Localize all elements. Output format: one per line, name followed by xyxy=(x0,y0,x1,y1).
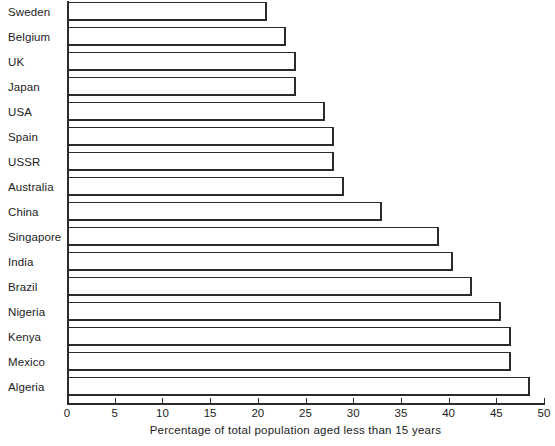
x-axis-tick-label: 5 xyxy=(111,407,117,419)
table-row: Algeria xyxy=(0,375,555,400)
category-label: Nigeria xyxy=(8,300,45,325)
category-label: USA xyxy=(8,100,32,125)
bar-singapore xyxy=(67,227,439,246)
table-row: Sweden xyxy=(0,0,555,25)
x-axis-tick xyxy=(258,398,259,403)
bar-chart: Sweden Belgium UK Japan USA Spain USSR xyxy=(0,0,555,446)
x-axis-tick-label: 45 xyxy=(490,407,503,419)
x-axis-tick xyxy=(496,398,497,403)
x-axis-tick xyxy=(401,398,402,403)
x-axis-tick-label: 15 xyxy=(204,407,217,419)
table-row: UK xyxy=(0,50,555,75)
bar-india xyxy=(67,252,453,271)
category-label: UK xyxy=(8,50,24,75)
x-axis-tick xyxy=(115,398,116,403)
x-axis-tick xyxy=(449,398,450,403)
x-axis-tick-label: 10 xyxy=(156,407,169,419)
bar-uk xyxy=(67,52,296,71)
bar-sweden xyxy=(67,2,267,21)
table-row: USA xyxy=(0,100,555,125)
category-label: Sweden xyxy=(8,0,50,25)
x-axis-tick-label: 40 xyxy=(442,407,455,419)
category-label: USSR xyxy=(8,150,40,175)
category-label: Belgium xyxy=(8,25,50,50)
table-row: India xyxy=(0,250,555,275)
x-axis-tick xyxy=(544,398,545,403)
x-axis-tick xyxy=(67,398,68,403)
bar-spain xyxy=(67,127,334,146)
table-row: USSR xyxy=(0,150,555,175)
x-axis-title: Percentage of total population aged less… xyxy=(0,424,555,436)
y-axis-line xyxy=(67,1,69,404)
table-row: China xyxy=(0,200,555,225)
x-axis-tick-label: 25 xyxy=(299,407,312,419)
category-label: Mexico xyxy=(8,350,45,375)
bar-usa xyxy=(67,102,325,121)
table-row: Singapore xyxy=(0,225,555,250)
bar-japan xyxy=(67,77,296,96)
table-row: Nigeria xyxy=(0,300,555,325)
x-axis-tick-label: 20 xyxy=(251,407,264,419)
bar-algeria xyxy=(67,377,530,396)
category-label: China xyxy=(8,200,39,225)
category-label: India xyxy=(8,250,33,275)
category-label: Singapore xyxy=(8,225,61,250)
bar-rows: Sweden Belgium UK Japan USA Spain USSR xyxy=(0,0,555,400)
category-label: Spain xyxy=(8,125,38,150)
table-row: Brazil xyxy=(0,275,555,300)
x-axis-tick xyxy=(162,398,163,403)
bar-belgium xyxy=(67,27,286,46)
x-axis-line xyxy=(67,403,545,405)
bar-china xyxy=(67,202,382,221)
table-row: Kenya xyxy=(0,325,555,350)
table-row: Belgium xyxy=(0,25,555,50)
category-label: Brazil xyxy=(8,275,37,300)
bar-mexico xyxy=(67,352,511,371)
table-row: Mexico xyxy=(0,350,555,375)
bar-ussr xyxy=(67,152,334,171)
table-row: Spain xyxy=(0,125,555,150)
x-axis-tick xyxy=(306,398,307,403)
category-label: Australia xyxy=(8,175,54,200)
x-axis-title-text: Percentage of total population aged less… xyxy=(150,424,442,436)
table-row: Australia xyxy=(0,175,555,200)
bar-kenya xyxy=(67,327,511,346)
category-label: Algeria xyxy=(8,375,45,400)
x-axis-tick-label: 35 xyxy=(394,407,407,419)
x-axis-tick xyxy=(353,398,354,403)
x-axis-tick-label: 0 xyxy=(64,407,70,419)
bar-australia xyxy=(67,177,344,196)
category-label: Japan xyxy=(8,75,40,100)
x-axis-tick xyxy=(210,398,211,403)
category-label: Kenya xyxy=(8,325,41,350)
x-axis-tick-label: 50 xyxy=(538,407,551,419)
table-row: Japan xyxy=(0,75,555,100)
bar-nigeria xyxy=(67,302,501,321)
x-axis-tick-label: 30 xyxy=(347,407,360,419)
bar-brazil xyxy=(67,277,472,296)
